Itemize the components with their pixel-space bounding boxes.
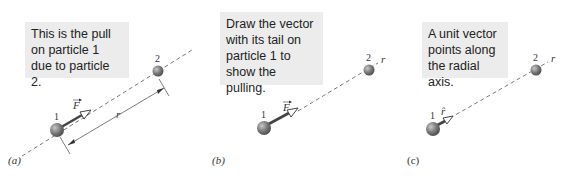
dimension-arrowhead-left [68, 139, 75, 145]
particle-2 [364, 65, 375, 76]
particle-2-label: 2 [533, 52, 538, 63]
particle-2-label: 2 [155, 53, 160, 64]
particle-2-label: 2 [366, 52, 371, 63]
axis-label-r: r [381, 53, 386, 65]
particle-1 [50, 123, 64, 137]
callout-panel-a: This is the pull on particle 1 due to pa… [25, 22, 129, 78]
vector-overarrow-head [79, 99, 82, 102]
force-vector-label: F [72, 99, 80, 111]
axis-label-r: r [551, 52, 556, 64]
dimension-arrowhead-right [157, 88, 164, 94]
dimension-tick-2 [159, 79, 169, 96]
force-vector-arrowhead [80, 110, 91, 119]
particle-2 [531, 65, 542, 76]
particle-2 [153, 66, 164, 77]
panel-label-c: (c) [407, 154, 419, 166]
particle-1-label: 1 [54, 111, 59, 122]
force-vector-label: F [282, 101, 290, 113]
unit-vector-arrowhead [443, 116, 453, 124]
particle-1-label: 1 [261, 109, 266, 120]
particle-1 [426, 122, 440, 136]
unit-vector-label: r̂ [441, 105, 446, 117]
panel-label-a: (a) [8, 154, 21, 166]
particle-1 [257, 121, 271, 135]
particle-1-label: 1 [430, 110, 435, 121]
vector-overarrow-head [289, 101, 292, 104]
callout-panel-c: A unit vector points along the radial ax… [422, 22, 508, 78]
callout-text: Draw the vector with its tail on particl… [226, 17, 314, 95]
panel-label-b: (b) [212, 154, 225, 166]
dimension-tick-1 [60, 137, 70, 154]
callout-panel-b: Draw the vector with its tail on particl… [220, 12, 323, 85]
distance-label-r: r [116, 108, 121, 120]
